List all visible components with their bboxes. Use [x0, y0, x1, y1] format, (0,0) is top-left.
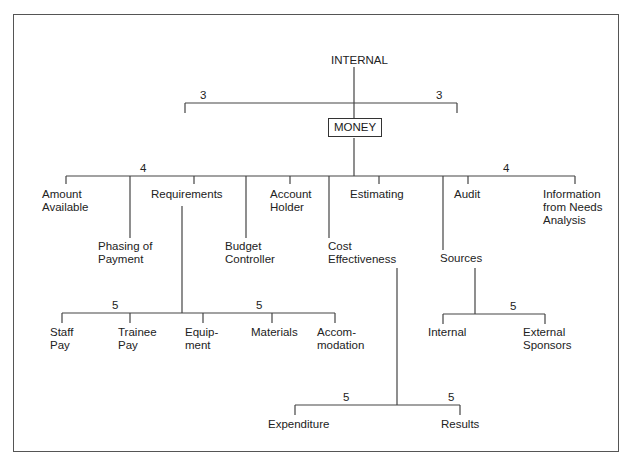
weight-level2-left: 4 — [140, 162, 146, 175]
weight-requirements-right: 5 — [256, 299, 262, 312]
node-external-sponsors: External Sponsors — [523, 326, 572, 352]
node-trainee-pay: Trainee Pay — [118, 326, 157, 352]
node-phasing-of-payment: Phasing of Payment — [98, 240, 152, 266]
node-results: Results — [441, 418, 479, 431]
weight-cost-right: 5 — [448, 391, 454, 404]
node-account-holder: Account Holder — [270, 188, 312, 214]
node-expenditure: Expenditure — [268, 418, 329, 431]
node-accommodation: Accom- modation — [317, 326, 364, 352]
node-staff-pay: Staff Pay — [50, 326, 73, 352]
weight-level1-left: 3 — [200, 89, 206, 102]
node-sources: Sources — [440, 252, 482, 265]
node-internal-root: INTERNAL — [331, 54, 388, 67]
weight-level1-right: 3 — [436, 89, 442, 102]
node-requirements: Requirements — [151, 188, 223, 201]
node-internal-source: Internal — [428, 326, 466, 339]
node-equipment: Equip- ment — [185, 326, 218, 352]
node-budget-controller: Budget Controller — [225, 240, 275, 266]
weight-cost-left: 5 — [343, 391, 349, 404]
weight-requirements-left: 5 — [112, 299, 118, 312]
connector-lines — [0, 0, 634, 469]
node-amount-available: Amount Available — [42, 188, 88, 214]
weight-sources: 5 — [510, 300, 516, 313]
node-money: MONEY — [328, 118, 382, 137]
node-materials: Materials — [251, 326, 298, 339]
node-audit: Audit — [454, 188, 480, 201]
node-estimating: Estimating — [350, 188, 404, 201]
node-cost-effectiveness: Cost Effectiveness — [328, 240, 396, 266]
node-information-from-needs-analysis: Information from Needs Analysis — [543, 188, 602, 227]
weight-level2-right: 4 — [503, 162, 509, 175]
